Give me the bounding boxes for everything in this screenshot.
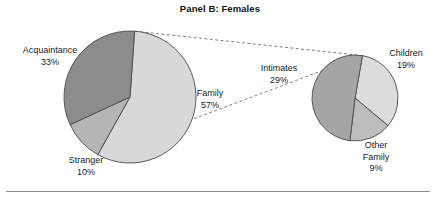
slice-label-children-name: Children (376, 48, 436, 60)
bottom-divider (6, 191, 430, 192)
slice-label-other-family-name1: Other (344, 140, 408, 152)
slice-label-intimates: Intimates 29% (247, 63, 311, 86)
slice-label-other-family-name2: Family (344, 152, 408, 164)
slice-label-stranger-pct: 10% (49, 167, 123, 179)
slice-label-acquaintance: Acquaintance 33% (4, 45, 96, 68)
slice-label-acquaintance-name: Acquaintance (4, 45, 96, 57)
slice-label-intimates-pct: 29% (247, 75, 311, 87)
slice-label-children-pct: 19% (376, 60, 436, 72)
slice-label-stranger-name: Stranger (49, 155, 123, 167)
slice-label-family-pct: 57% (181, 100, 239, 112)
slice-label-intimates-name: Intimates (247, 63, 311, 75)
slice-label-other-family-pct: 9% (344, 163, 408, 175)
slice-label-children: Children 19% (376, 48, 436, 71)
slice-label-stranger: Stranger 10% (49, 155, 123, 178)
slice-label-acquaintance-pct: 33% (4, 57, 96, 69)
pie-chart-figure: Panel B: Females Family 57%Stranger 10%A… (0, 0, 440, 200)
slice-label-other-family: Other Family 9% (344, 140, 408, 175)
slice-label-family: Family 57% (181, 88, 239, 111)
slice-label-family-name: Family (181, 88, 239, 100)
